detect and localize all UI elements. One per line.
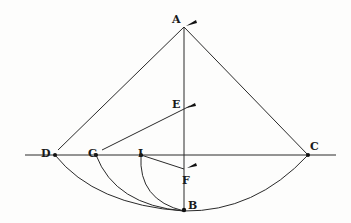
label-C: C (310, 140, 319, 153)
label-G: G (88, 147, 97, 160)
label-B: B (188, 199, 197, 212)
line-IF (141, 155, 184, 169)
line-AD (58, 27, 184, 150)
geometry-diagram: A E F D G I C B (0, 0, 351, 223)
label-D: D (41, 147, 51, 160)
line-AC (184, 27, 308, 155)
label-A: A (171, 13, 181, 26)
arrow-mark-A-icon (186, 20, 197, 26)
arrow-mark-E-icon (186, 103, 196, 108)
arc-IB (141, 155, 184, 211)
arc-GB (96, 155, 184, 211)
point-C (306, 153, 310, 157)
diagram-svg: A E F D G I C B (0, 0, 351, 223)
label-E: E (172, 98, 180, 111)
label-F: F (182, 174, 190, 187)
point-B (182, 208, 186, 212)
label-I: I (138, 147, 143, 160)
point-D (53, 153, 57, 157)
arrow-mark-F-icon (187, 163, 197, 168)
line-GE (102, 106, 190, 150)
